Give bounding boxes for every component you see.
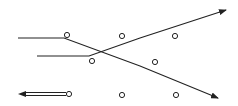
- node-circle-n8: [173, 92, 178, 97]
- node-circle-n2: [89, 58, 94, 63]
- diagram-svg: [0, 0, 238, 106]
- node-circle-n6: [66, 91, 71, 96]
- diagram-canvas: [0, 0, 238, 106]
- node-circle-n1: [64, 32, 69, 37]
- node-circle-n5: [152, 59, 157, 64]
- node-circles: [64, 32, 178, 97]
- node-circle-n3: [119, 33, 124, 38]
- arrow-left-icon: [18, 91, 26, 97]
- upper-track-line: [18, 38, 218, 98]
- node-circle-n4: [172, 33, 177, 38]
- double-arrow: [18, 91, 66, 97]
- track-lines: [18, 10, 226, 98]
- node-circle-n7: [119, 92, 124, 97]
